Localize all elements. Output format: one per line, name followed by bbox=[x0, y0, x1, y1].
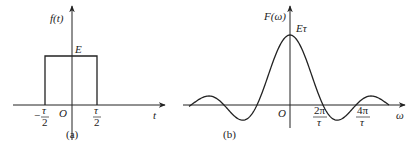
tick2-den: τ bbox=[360, 116, 365, 128]
y-axis-label-a: f(t) bbox=[50, 12, 64, 25]
x-axis-label-b: ω bbox=[396, 109, 404, 121]
x-axis-label-a: t bbox=[153, 109, 157, 121]
y-axis-label-b: F(ω) bbox=[263, 10, 286, 23]
origin-label-b: O bbox=[278, 107, 286, 119]
height-label-e: E bbox=[74, 43, 82, 55]
panel-a-rect-pulse: f(t) E O − τ 2 τ 2 t (a) bbox=[13, 6, 165, 141]
right-tick-num: τ bbox=[94, 104, 99, 116]
left-tick-sign: − bbox=[34, 109, 40, 121]
figure: f(t) E O − τ 2 τ 2 t (a) F(ω) Eτ O 2π τ … bbox=[0, 0, 413, 149]
tick1-num: 2π bbox=[314, 104, 326, 116]
caption-a: (a) bbox=[66, 128, 79, 141]
tick1-den: τ bbox=[317, 116, 322, 128]
rect-pulse-curve bbox=[45, 56, 97, 105]
panel-b-sinc-spectrum: F(ω) Eτ O 2π τ 4π τ ω (b) bbox=[183, 6, 405, 141]
tick2-num: 4π bbox=[357, 104, 369, 116]
peak-label: Eτ bbox=[295, 22, 308, 34]
left-tick-num: τ bbox=[42, 104, 47, 116]
caption-b: (b) bbox=[223, 128, 236, 141]
origin-label-a: O bbox=[59, 107, 67, 119]
right-tick-den: 2 bbox=[94, 116, 100, 128]
left-tick-den: 2 bbox=[42, 116, 48, 128]
